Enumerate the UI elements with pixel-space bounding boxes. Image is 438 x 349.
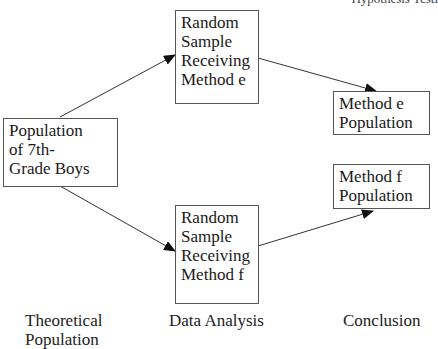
node-line: Random [181, 208, 258, 227]
stage-label-theoretical-population: Theoretical Population [25, 311, 102, 349]
arrow-sample-f-to-method-f-population [258, 211, 373, 246]
node-line: Receiving [181, 246, 258, 265]
node-line: Population [339, 186, 429, 205]
node-line: Method f [339, 167, 429, 186]
node-method-e-population: Method e Population [333, 91, 430, 135]
node-line: Method e [339, 94, 429, 113]
arrow-sample-e-to-method-e-population [258, 58, 376, 91]
node-line: Method e [181, 70, 258, 89]
stage-label-line: Conclusion [343, 311, 420, 330]
stage-label-conclusion: Conclusion [343, 311, 420, 330]
node-line: Population [339, 113, 429, 132]
node-line: Sample [181, 32, 258, 51]
node-line: Receiving [181, 51, 258, 70]
stage-label-data-analysis: Data Analysis [169, 311, 264, 330]
node-line: Random [181, 13, 258, 32]
arrow-population-to-sample-e [60, 55, 175, 117]
node-line: Method f [181, 265, 258, 284]
stage-label-line: Population [25, 330, 102, 349]
arrow-population-to-sample-f [60, 186, 175, 251]
node-line: Sample [181, 227, 258, 246]
node-line: Population [9, 121, 117, 140]
node-population: Population of 7th- Grade Boys [3, 118, 118, 187]
stage-label-line: Data Analysis [169, 311, 264, 330]
node-sample-e: Random Sample Receiving Method e [175, 10, 259, 104]
node-line: Grade Boys [9, 159, 117, 178]
node-sample-f: Random Sample Receiving Method f [175, 205, 259, 304]
stage-label-line: Theoretical [25, 311, 102, 330]
node-line: of 7th- [9, 140, 117, 159]
node-method-f-population: Method f Population [333, 164, 430, 209]
